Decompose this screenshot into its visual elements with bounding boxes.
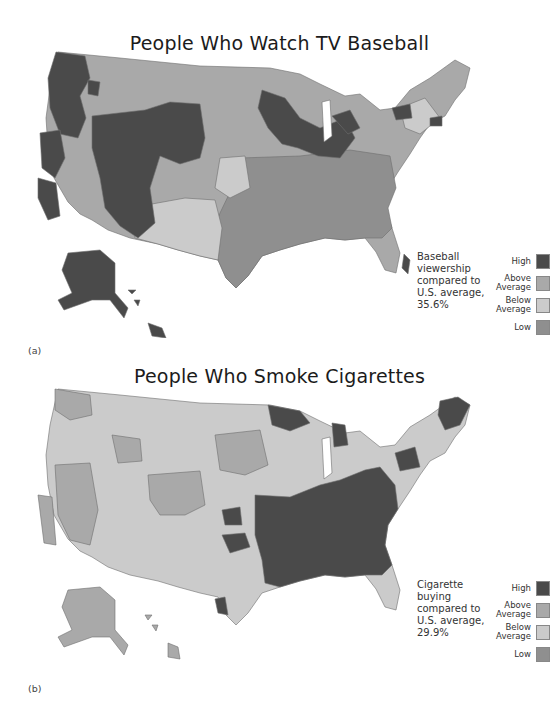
- legend-swatch-above-average: [536, 276, 550, 291]
- region-high-ok: [222, 507, 242, 525]
- region-high-florida: [402, 254, 410, 274]
- legend-swatch-below-average: [536, 625, 550, 640]
- legend-item-above-average: Above Average: [470, 599, 550, 621]
- hawaii: [145, 615, 180, 659]
- map-legend: High Above Average Below Average Low: [470, 577, 550, 665]
- region-high-ct: [430, 116, 442, 126]
- panel-cigarettes: People Who Smoke Cigarettes: [0, 355, 559, 710]
- lake-michigan: [322, 437, 332, 479]
- map-legend: High Above Average Below Average Low: [470, 250, 550, 338]
- legend-item-low: Low: [470, 316, 550, 338]
- lake-michigan: [322, 100, 332, 142]
- hawaii: [128, 290, 166, 338]
- region-high-michigan: [332, 423, 348, 447]
- panel-label: (b): [28, 683, 41, 694]
- legend-swatch-low: [536, 647, 550, 662]
- region-high-idaho-patch: [88, 80, 100, 96]
- alaska: [58, 250, 128, 318]
- legend-swatch-low: [536, 320, 550, 335]
- legend-swatch-above-average: [536, 603, 550, 618]
- legend-item-high: High: [470, 250, 550, 272]
- region-high-upstate-ny: [392, 104, 412, 120]
- legend-swatch-below-average: [536, 298, 550, 313]
- alaska: [58, 587, 128, 655]
- region-high-ca-south: [38, 178, 60, 220]
- legend-item-above-average: Above Average: [470, 272, 550, 294]
- panel-baseball: People Who Watch TV Baseball: [0, 0, 559, 355]
- legend-item-below-average: Below Average: [470, 621, 550, 643]
- region-above-nevada: [55, 463, 98, 545]
- legend-item-high: High: [470, 577, 550, 599]
- region-above-dakotas: [215, 430, 268, 475]
- legend-swatch-high: [536, 254, 550, 269]
- legend-item-low: Low: [470, 643, 550, 665]
- region-above-colorado: [148, 471, 205, 515]
- legend-item-below-average: Below Average: [470, 294, 550, 316]
- legend-swatch-high: [536, 581, 550, 596]
